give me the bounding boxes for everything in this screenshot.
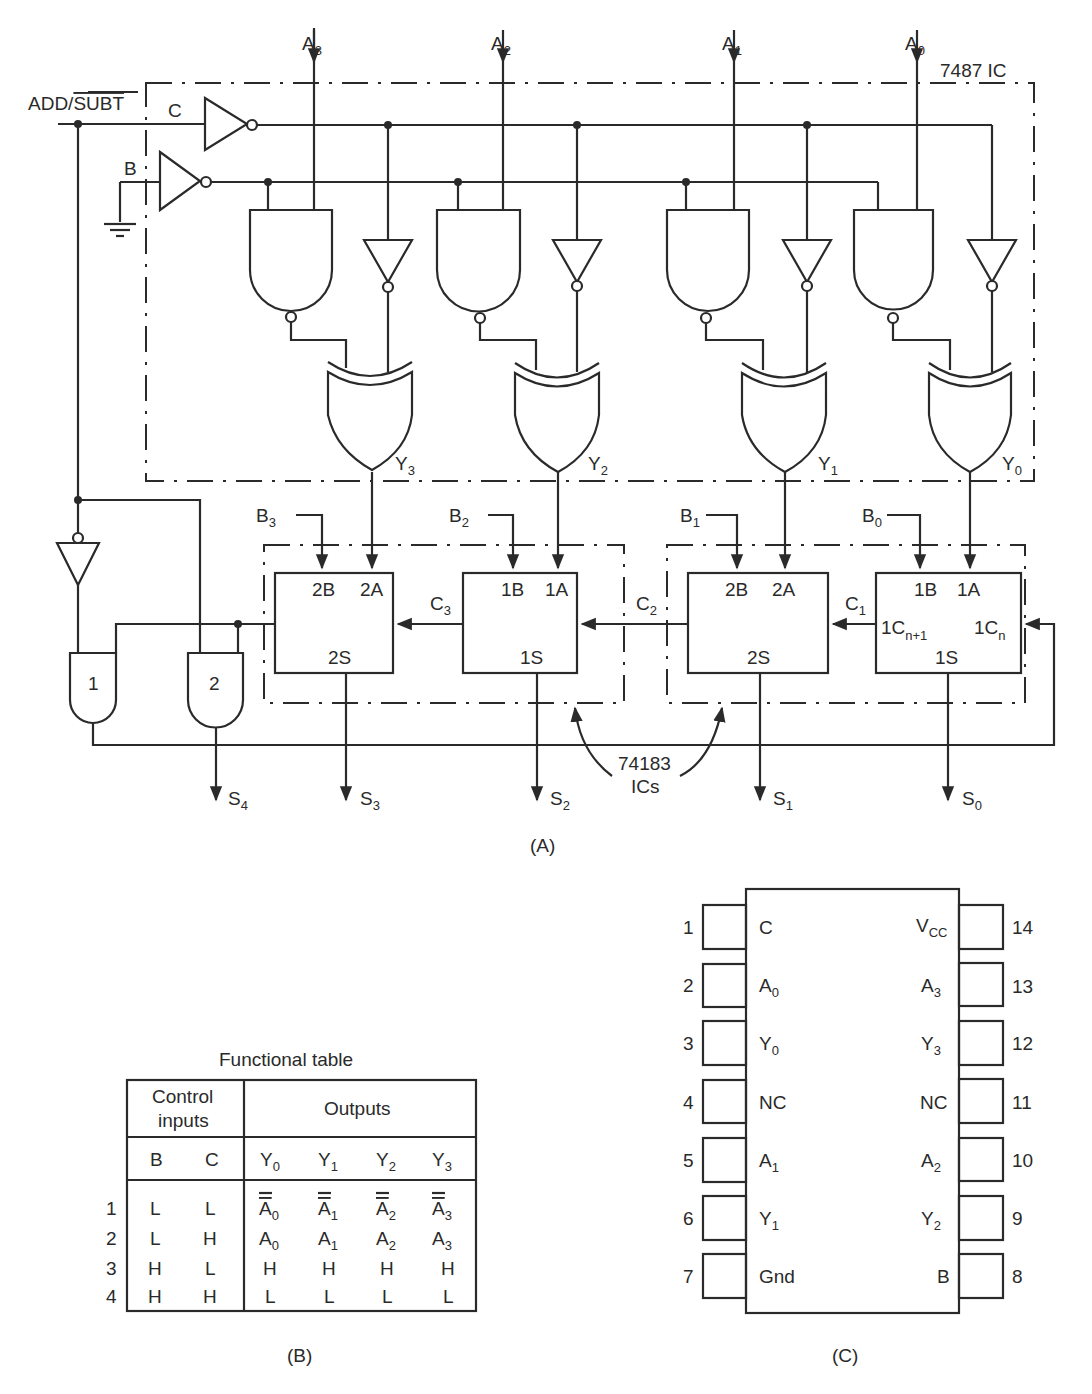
stage-0: A0 Y0	[854, 30, 1022, 478]
b-label: B	[124, 158, 137, 179]
svg-text:1A: 1A	[545, 579, 569, 600]
xnor-gate	[929, 373, 1011, 472]
svg-text:S0: S0	[962, 788, 982, 813]
svg-text:ICs: ICs	[631, 776, 660, 797]
svg-text:2: 2	[106, 1228, 117, 1249]
svg-text:H: H	[148, 1286, 162, 1307]
svg-text:2A: 2A	[772, 579, 796, 600]
svg-text:8: 8	[1012, 1266, 1023, 1287]
svg-text:1A: 1A	[957, 579, 981, 600]
circuit-figure: 7487 IC ADD/SUBT C B	[0, 0, 1092, 1394]
figure-c-caption: (C)	[832, 1345, 858, 1366]
inverter-gate	[783, 240, 831, 282]
svg-text:NC: NC	[759, 1092, 786, 1113]
svg-text:L: L	[324, 1286, 335, 1307]
svg-text:A0: A0	[905, 33, 925, 58]
nand-gate	[667, 210, 749, 311]
svg-text:B: B	[937, 1266, 950, 1287]
svg-text:2B: 2B	[312, 579, 335, 600]
svg-text:C: C	[205, 1149, 219, 1170]
svg-text:Y3: Y3	[395, 453, 415, 478]
svg-text:S2: S2	[550, 788, 570, 813]
svg-text:H: H	[203, 1228, 217, 1249]
svg-text:2S: 2S	[747, 647, 770, 668]
svg-text:A0: A0	[259, 1228, 279, 1253]
svg-text:L: L	[205, 1258, 216, 1279]
svg-text:Outputs: Outputs	[324, 1098, 391, 1119]
svg-text:C2: C2	[636, 593, 657, 618]
svg-text:13: 13	[1012, 976, 1033, 997]
svg-text:Functional table: Functional table	[219, 1049, 353, 1070]
svg-text:L: L	[443, 1286, 454, 1307]
svg-text:NC: NC	[920, 1092, 947, 1113]
svg-text:A1: A1	[318, 1198, 338, 1223]
svg-text:L: L	[382, 1286, 393, 1307]
xnor-gate	[515, 373, 599, 472]
svg-text:C3: C3	[430, 593, 451, 618]
svg-text:4: 4	[683, 1092, 694, 1113]
svg-text:Control: Control	[152, 1086, 213, 1107]
svg-text:2: 2	[209, 673, 220, 694]
nand-gate	[437, 210, 520, 312]
svg-text:L: L	[205, 1198, 216, 1219]
svg-text:Y2: Y2	[588, 453, 608, 478]
svg-text:inputs: inputs	[158, 1110, 209, 1131]
stage-3: A3 Y3	[250, 28, 415, 478]
svg-text:2B: 2B	[725, 579, 748, 600]
svg-text:3: 3	[683, 1033, 694, 1054]
svg-text:1B: 1B	[914, 579, 937, 600]
svg-text:C: C	[759, 917, 773, 938]
figure-c-pinout: 1 2 3 4 5 6 7 C A0 Y0 NC A1 Y1 Gnd 14 13	[683, 889, 1034, 1366]
svg-text:C1: C1	[845, 593, 866, 618]
svg-text:B1: B1	[680, 505, 700, 530]
svg-text:3: 3	[106, 1258, 117, 1279]
svg-text:Y1: Y1	[318, 1149, 338, 1174]
svg-text:S3: S3	[360, 788, 380, 813]
svg-text:1S: 1S	[520, 647, 543, 668]
svg-text:Gnd: Gnd	[759, 1266, 795, 1287]
svg-text:H: H	[148, 1258, 162, 1279]
svg-text:1: 1	[106, 1198, 117, 1219]
figure-b-caption: (B)	[287, 1345, 312, 1366]
figure-b-functional-table: Functional table Control inputs Outputs …	[106, 1049, 476, 1366]
figure-a: 7487 IC ADD/SUBT C B	[0, 28, 1054, 856]
svg-text:11: 11	[1012, 1092, 1032, 1113]
svg-text:S1: S1	[773, 788, 793, 813]
svg-text:L: L	[265, 1286, 276, 1307]
inverter-gate	[968, 240, 1016, 282]
stage-2: A2 Y2	[437, 30, 608, 478]
svg-text:B2: B2	[449, 505, 469, 530]
stage-1: A1 Y1	[667, 30, 838, 478]
svg-text:Y0: Y0	[1002, 453, 1022, 478]
svg-text:A1: A1	[722, 33, 742, 58]
svg-text:H: H	[380, 1258, 394, 1279]
svg-text:B3: B3	[256, 505, 276, 530]
svg-text:1S: 1S	[935, 647, 958, 668]
svg-text:6: 6	[683, 1208, 694, 1229]
ic-74183-label: 74183	[618, 753, 671, 774]
svg-text:1B: 1B	[501, 579, 524, 600]
svg-text:B: B	[150, 1149, 163, 1170]
svg-text:S4: S4	[228, 788, 248, 813]
svg-text:A2: A2	[491, 33, 511, 58]
b-inverter-gate	[160, 152, 200, 210]
svg-text:Y2: Y2	[376, 1149, 396, 1174]
svg-text:2S: 2S	[328, 647, 351, 668]
svg-text:H: H	[203, 1286, 217, 1307]
svg-text:H: H	[441, 1258, 455, 1279]
svg-text:H: H	[322, 1258, 336, 1279]
ic-7487-label: 7487 IC	[940, 60, 1007, 81]
svg-text:A3: A3	[302, 33, 322, 58]
svg-text:10: 10	[1012, 1150, 1033, 1171]
svg-text:B0: B0	[862, 505, 882, 530]
xnor-gate	[742, 373, 826, 472]
inverter-gate	[553, 240, 601, 282]
svg-text:L: L	[150, 1228, 161, 1249]
svg-text:1: 1	[683, 917, 694, 938]
svg-text:L: L	[150, 1198, 161, 1219]
nand-gate	[250, 210, 332, 311]
add-subt-label: ADD/SUBT	[28, 93, 124, 114]
svg-text:2A: 2A	[360, 579, 384, 600]
svg-text:1: 1	[88, 673, 99, 694]
svg-text:Y1: Y1	[818, 453, 838, 478]
